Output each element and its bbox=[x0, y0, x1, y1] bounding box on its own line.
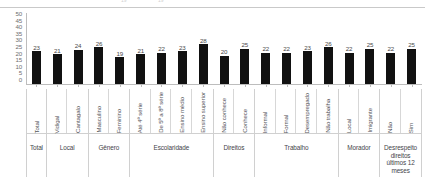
bar-slot: 23 bbox=[172, 13, 193, 84]
x-tick-mark bbox=[57, 84, 58, 87]
category-label: Sim bbox=[407, 122, 414, 133]
bar-slot: 22 bbox=[380, 13, 401, 84]
bar-value-label: 19 bbox=[117, 50, 123, 57]
chart-page: 19 19 50454035302520151050 2321242619212… bbox=[0, 0, 425, 177]
bar bbox=[261, 53, 270, 84]
category-group: Não conheceConheceDireitos bbox=[214, 89, 256, 177]
category-group: TotalTotal bbox=[26, 89, 47, 177]
x-tick-mark bbox=[349, 84, 350, 87]
bar bbox=[115, 57, 124, 84]
bar bbox=[282, 53, 291, 84]
group-title-cell: Trabalho bbox=[255, 133, 337, 177]
category-label: Até 4ª série bbox=[136, 102, 143, 133]
x-tick-mark bbox=[391, 84, 392, 87]
bar-slot: 21 bbox=[130, 13, 151, 84]
category-cells: NãoSim bbox=[380, 89, 421, 133]
bar bbox=[386, 53, 395, 84]
category-cell: Feminino bbox=[109, 89, 129, 133]
bar bbox=[365, 49, 374, 85]
category-cells: LocalImigrante bbox=[339, 89, 380, 133]
category-cell: Conhece bbox=[234, 89, 254, 133]
bar bbox=[324, 47, 333, 84]
x-tick-mark bbox=[120, 84, 121, 87]
bar-value-label: 26 bbox=[96, 40, 102, 47]
category-cells: Até 4ª sérieDe 5ª a 8ª sérieEnsino médio… bbox=[130, 89, 212, 133]
category-cell: Cantagalo bbox=[67, 89, 87, 133]
y-tick-label: 0 bbox=[19, 77, 22, 83]
category-cells: MasculinoFeminino bbox=[89, 89, 130, 133]
category-label: Feminino bbox=[115, 108, 122, 133]
category-group: Até 4ª sérieDe 5ª a 8ª sérieEnsino médio… bbox=[130, 89, 213, 177]
bar-slot: 26 bbox=[89, 13, 110, 84]
category-cells: Não conheceConhece bbox=[214, 89, 255, 133]
category-label: Não conhece bbox=[220, 97, 227, 133]
clipped-top-strip: 19 19 bbox=[0, 0, 425, 11]
bar-slot: 19 bbox=[109, 13, 130, 84]
category-cell: Não bbox=[380, 89, 400, 133]
category-label: Ensino médio bbox=[178, 96, 185, 133]
group-title-label: Direitos bbox=[223, 144, 244, 152]
category-cell: Informal bbox=[255, 89, 276, 133]
bar-slot: 24 bbox=[68, 13, 89, 84]
bar bbox=[220, 56, 229, 84]
bar-value-label: 22 bbox=[346, 45, 352, 52]
group-title-cell: Morador bbox=[339, 133, 380, 177]
category-cell: Vidigal bbox=[47, 89, 67, 133]
bar bbox=[74, 50, 83, 84]
category-cell: Ensino superior bbox=[192, 89, 213, 133]
bar-value-label: 22 bbox=[388, 45, 394, 52]
x-tick-mark bbox=[307, 84, 308, 87]
category-label: Imigrante bbox=[366, 107, 373, 133]
category-cell: Desempregado bbox=[296, 89, 317, 133]
category-label: Desempregado bbox=[303, 92, 310, 133]
x-tick-mark bbox=[36, 84, 37, 87]
category-label: Formal bbox=[282, 114, 289, 133]
category-label: Ensino superior bbox=[199, 91, 206, 133]
x-tick-mark bbox=[412, 84, 413, 87]
category-label: Informal bbox=[261, 111, 268, 133]
bar-series: 23212426192122232820252222232622252225 bbox=[26, 13, 422, 84]
bar-value-label: 21 bbox=[54, 47, 60, 54]
x-tick-mark bbox=[266, 84, 267, 87]
group-title-cell: Direitos bbox=[214, 133, 255, 177]
bar bbox=[136, 54, 145, 84]
category-cells: InformalFormalDesempregadoNão trabalha bbox=[255, 89, 337, 133]
bar-value-label: 22 bbox=[283, 45, 289, 52]
x-tick-mark bbox=[78, 84, 79, 87]
bar bbox=[53, 54, 62, 84]
group-title-cell: Local bbox=[47, 133, 88, 177]
category-group: VidigalCantagaloLocal bbox=[47, 89, 89, 177]
ghost-value-left: 19 bbox=[121, 0, 127, 3]
bar bbox=[240, 49, 249, 85]
category-cell: Sim bbox=[401, 89, 421, 133]
group-title-label: Local bbox=[60, 144, 75, 152]
category-label: Não trabalha bbox=[324, 98, 331, 133]
bar-value-label: 28 bbox=[200, 37, 206, 44]
bar-value-label: 23 bbox=[33, 44, 39, 51]
bar-slot: 22 bbox=[151, 13, 172, 84]
category-cell: Total bbox=[27, 89, 46, 133]
category-cell: Ensino médio bbox=[171, 89, 192, 133]
ghost-value-right: 19 bbox=[158, 0, 164, 3]
category-cell: Masculino bbox=[89, 89, 109, 133]
category-cells: VidigalCantagalo bbox=[47, 89, 88, 133]
bar-value-label: 25 bbox=[408, 41, 414, 48]
category-label: Não bbox=[386, 121, 393, 133]
category-label: Cantagalo bbox=[74, 105, 81, 133]
category-label: Conhece bbox=[241, 108, 248, 133]
bar-slot: 25 bbox=[234, 13, 255, 84]
bar-value-label: 25 bbox=[242, 41, 248, 48]
bar-value-label: 24 bbox=[75, 42, 81, 49]
category-cell: Até 4ª série bbox=[130, 89, 151, 133]
category-group: LocalImigranteMorador bbox=[339, 89, 381, 177]
x-tick-mark bbox=[370, 84, 371, 87]
category-cell: Formal bbox=[276, 89, 297, 133]
group-title-label: Desrespeito direitos últimos 12 meses bbox=[380, 144, 421, 174]
bar-slot: 26 bbox=[318, 13, 339, 84]
group-title-label: Morador bbox=[347, 144, 370, 152]
group-title-cell: Gênero bbox=[89, 133, 130, 177]
category-cell: Não trabalha bbox=[317, 89, 338, 133]
plot-area: 50454035302520151050 2321242619212223282… bbox=[0, 11, 425, 89]
category-group: InformalFormalDesempregadoNão trabalhaTr… bbox=[255, 89, 338, 177]
bar bbox=[199, 44, 208, 84]
